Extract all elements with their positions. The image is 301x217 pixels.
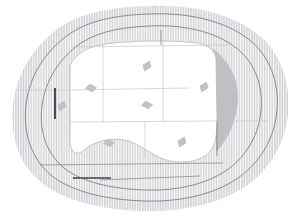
west-wall-bar bbox=[54, 88, 56, 119]
site-plan-canvas bbox=[0, 0, 301, 217]
main-building-footprint bbox=[70, 41, 217, 162]
scale-bar-group bbox=[73, 177, 111, 179]
site-plan-drawing bbox=[0, 0, 301, 217]
